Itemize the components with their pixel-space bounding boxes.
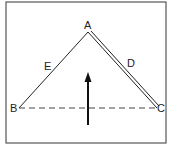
diagram-canvas: A B C E D [0, 0, 172, 145]
edge-d-line-1 [88, 32, 157, 108]
label-a: A [84, 19, 92, 31]
edge-d-line-2 [91, 31, 159, 106]
label-d: D [127, 57, 135, 69]
edge-e [19, 32, 88, 108]
label-e: E [44, 60, 51, 72]
label-c: C [157, 102, 165, 114]
arrow-up-icon [85, 72, 92, 82]
label-b: B [10, 102, 17, 114]
